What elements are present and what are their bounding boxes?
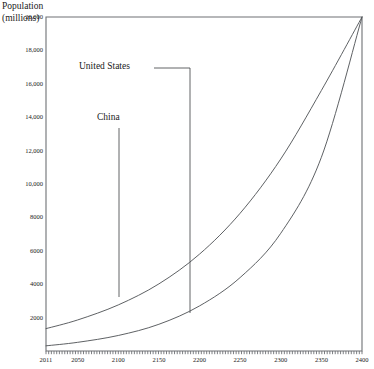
x-axis-tick-label: 2400 [342,356,374,363]
y-axis-tick-label: 12,000 [25,147,43,154]
annotation-leader-lines [119,68,190,313]
y-axis-tick-label: 4000 [30,280,43,287]
population-projection-chart: Population (millions) 200040006000800010… [0,0,374,369]
x-axis-tick-label: 2250 [220,356,260,363]
x-axis-tick-label: 2200 [180,356,220,363]
y-axis-tick-label: 6000 [30,247,43,254]
y-axis-tick-label: 18,000 [25,46,43,53]
x-axis-tick-label: 2150 [139,356,179,363]
y-axis-tick-label: 20,000 [25,13,43,20]
series-label-china: China [97,112,120,122]
y-axis-tick-label: 8000 [30,213,43,220]
x-axis-tick-label: 2300 [261,356,301,363]
chart-canvas [0,0,374,369]
series-label-united-states: United States [79,61,130,71]
y-axis-tick-label: 2000 [30,314,43,321]
x-axis-tick-label: 2100 [98,356,138,363]
y-axis-tick-label: 16,000 [25,80,43,87]
y-axis-tick-label: 14,000 [25,113,43,120]
y-axis-tick-label: 10,000 [25,180,43,187]
x-axis-tick-label: 2050 [58,356,98,363]
x-axis-tick-label: 2350 [301,356,341,363]
